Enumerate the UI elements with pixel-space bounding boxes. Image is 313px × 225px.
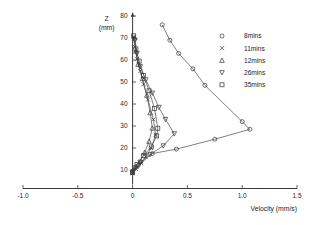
data-point-marker-cross bbox=[220, 46, 224, 50]
legend-item-35mins: 35mins bbox=[220, 81, 266, 88]
legend-item-8mins: 8mins bbox=[220, 32, 262, 39]
x-axis-tick-label: 1.5 bbox=[292, 192, 301, 199]
legend-item-label: 26mins bbox=[244, 69, 266, 76]
data-point-marker-square bbox=[220, 83, 224, 87]
data-point-marker-circle bbox=[220, 34, 224, 38]
series-8mins bbox=[131, 23, 252, 173]
legend-item-26mins: 26mins bbox=[220, 69, 266, 76]
y-axis-tick-label: 80 bbox=[120, 12, 128, 19]
legend-item-label: 12mins bbox=[244, 57, 266, 64]
x-axis-tick-label: 1.0 bbox=[238, 192, 247, 199]
y-axis-tick-label: 50 bbox=[120, 78, 128, 85]
chart-legend: 8mins11mins12mins26mins35mins bbox=[220, 32, 266, 88]
tick-label-layer: -1.0-0.500.51.01.51020304050607080 bbox=[17, 12, 301, 199]
chart-figure: -1.0-0.500.51.01.51020304050607080 8mins… bbox=[0, 0, 313, 225]
velocity-profile-chart: -1.0-0.500.51.01.51020304050607080 8mins… bbox=[0, 0, 313, 225]
y-axis-tick-label: 60 bbox=[120, 56, 128, 63]
y-axis-tick-label: 70 bbox=[120, 34, 128, 41]
y-axis-tick-label: 30 bbox=[120, 122, 128, 129]
x-axis-tick-label: 0 bbox=[131, 192, 135, 199]
legend-item-11mins: 11mins bbox=[220, 45, 265, 52]
y-axis-tick-label: 40 bbox=[120, 100, 128, 107]
data-series-layer bbox=[130, 23, 252, 176]
y-axis-units-label: (mm) bbox=[99, 24, 115, 32]
legend-item-12mins: 12mins bbox=[220, 57, 266, 64]
data-point-marker-triangle-down bbox=[220, 71, 225, 75]
legend-item-label: 8mins bbox=[244, 32, 262, 39]
legend-item-label: 11mins bbox=[244, 45, 265, 52]
x-axis-tick-label: -0.5 bbox=[72, 192, 84, 199]
x-axis-tick-label: -1.0 bbox=[17, 192, 29, 199]
data-point-marker-triangle-up bbox=[220, 58, 225, 62]
y-axis-tick-label: 10 bbox=[120, 166, 128, 173]
legend-item-label: 35mins bbox=[244, 81, 266, 88]
axis-title-layer: Z(mm)Velocity (mm/s) bbox=[99, 15, 297, 213]
y-axis-tick-label: 20 bbox=[120, 144, 128, 151]
x-axis-tick-label: 0.5 bbox=[183, 192, 192, 199]
y-axis-title: Z bbox=[105, 15, 109, 22]
x-axis-title: Velocity (mm/s) bbox=[251, 205, 297, 213]
